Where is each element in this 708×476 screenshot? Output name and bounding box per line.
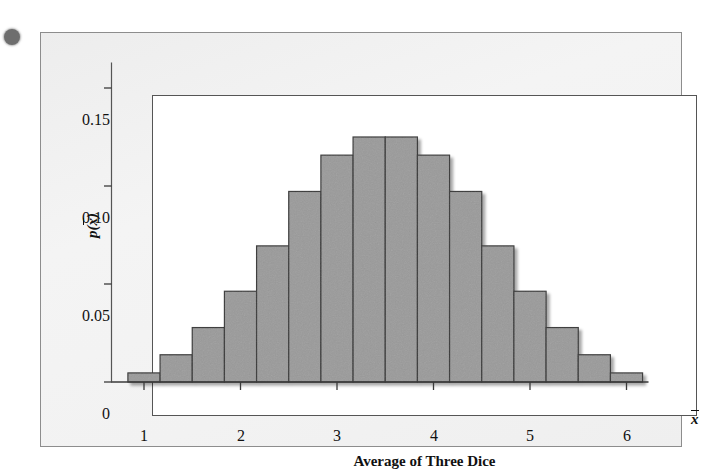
x-tick-label-4: 4 [414, 427, 454, 445]
x-axis-variable-xbar: x [691, 411, 699, 428]
plot-frame [152, 95, 697, 416]
x-axis-variable-label: x [691, 411, 699, 428]
x-tick-label-1: 1 [124, 427, 164, 445]
y-tick-label-015: 0.15 [60, 111, 110, 129]
corner-dot-marker [4, 29, 20, 45]
x-tick-label-6: 6 [607, 427, 647, 445]
y-axis-title-xbar: x [84, 218, 101, 226]
x-tick-label-3: 3 [317, 427, 357, 445]
y-axis-title-open: ( [84, 226, 100, 231]
y-axis-title: p(x) [84, 213, 101, 238]
y-tick-label-005: 0.05 [60, 307, 110, 325]
figure-frame: 0.15 0.10 0.05 0 1 2 3 4 5 6 p(x) Averag… [40, 32, 682, 447]
x-tick-label-2: 2 [221, 427, 261, 445]
x-tick-label-5: 5 [510, 427, 550, 445]
y-tick-label-0: 0 [60, 405, 110, 423]
figure-page: 0.15 0.10 0.05 0 1 2 3 4 5 6 p(x) Averag… [0, 0, 708, 476]
x-axis-title: Average of Three Dice [152, 453, 697, 470]
y-axis-title-p: p [84, 231, 100, 239]
